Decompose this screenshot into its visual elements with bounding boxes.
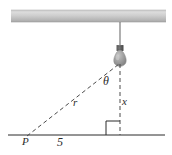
right-angle-marker (106, 121, 120, 135)
figure-container: θ x r P 5 (0, 0, 172, 155)
light-bulb (114, 45, 126, 66)
base-distance-label: 5 (57, 136, 63, 148)
diagram-canvas (0, 0, 172, 155)
height-x-label: x (122, 96, 127, 107)
radius-r-label: r (73, 97, 77, 108)
angle-theta-label: θ (103, 75, 109, 87)
ceiling-beam (11, 10, 166, 22)
point-p-label: P (22, 136, 29, 147)
